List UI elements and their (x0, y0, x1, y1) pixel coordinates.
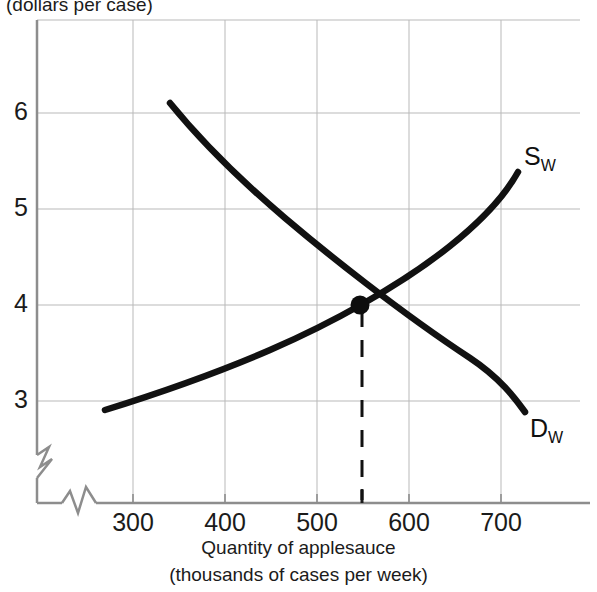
supply-curve-label: SW (524, 142, 556, 175)
y-tick-label-4: 4 (0, 289, 28, 318)
axes (37, 20, 590, 503)
x-axis-title: Quantity of applesauce (thousands of cas… (0, 534, 597, 588)
x-axis-title-line2: (thousands of cases per week) (0, 561, 597, 588)
x-tick-label-500: 500 (272, 508, 362, 537)
y-tick-label-3: 3 (0, 385, 28, 414)
y-tick-label-6: 6 (0, 97, 28, 126)
chart-canvas (0, 0, 597, 592)
gridlines (37, 20, 580, 503)
equilibrium-point (351, 296, 370, 315)
x-axis-title-line1: Quantity of applesauce (0, 534, 597, 561)
x-tick-label-400: 400 (180, 508, 270, 537)
supply-curve-letter: S (524, 142, 541, 170)
supply-demand-chart: (dollars per case) (0, 0, 597, 592)
supply-curve-subscript: W (541, 157, 556, 174)
x-tick-label-600: 600 (364, 508, 454, 537)
supply-curve (105, 172, 518, 410)
x-tick-label-700: 700 (456, 508, 546, 537)
demand-curve-letter: D (530, 414, 548, 442)
x-tick-label-300: 300 (88, 508, 178, 537)
y-tick-label-5: 5 (0, 193, 28, 222)
demand-curve-subscript: W (548, 429, 563, 446)
demand-curve-label: DW (530, 414, 563, 447)
y-axis-break-icon (37, 447, 52, 478)
